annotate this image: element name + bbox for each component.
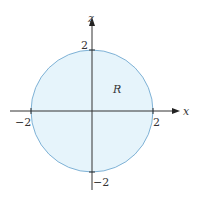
x-axis-label: x [183,105,190,118]
tick-label-z-neg: −2 [93,176,109,189]
region-diagram: x z R −2 2 2 −2 [0,0,198,198]
tick-label-x-pos: 2 [153,116,160,129]
tick-label-x-neg: −2 [15,116,31,129]
x-axis-arrow-icon [172,108,180,114]
figure: x z R −2 2 2 −2 [0,0,198,198]
region-label: R [112,83,121,96]
tick-label-z-pos: 2 [81,39,88,52]
z-axis-label: z [87,12,94,25]
